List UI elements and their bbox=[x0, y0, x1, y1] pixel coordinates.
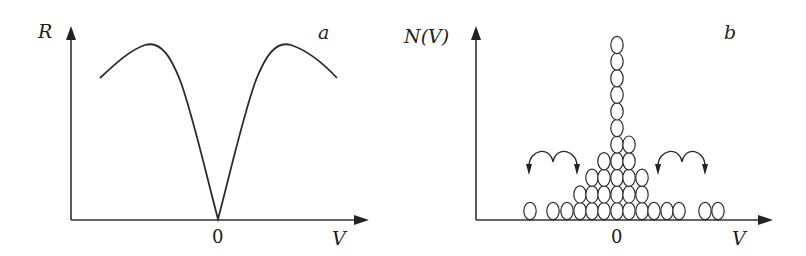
figure: R a 0 V N(V) b bbox=[0, 0, 806, 256]
particle bbox=[574, 186, 586, 203]
particle bbox=[586, 186, 598, 203]
particle bbox=[623, 153, 635, 170]
x-axis-arrow-icon bbox=[354, 215, 369, 225]
particle bbox=[611, 103, 623, 120]
particle bbox=[611, 153, 623, 170]
particle bbox=[611, 86, 623, 103]
particle bbox=[598, 153, 610, 170]
particle bbox=[611, 202, 623, 219]
panel-label-b: b bbox=[724, 21, 736, 43]
particle bbox=[712, 202, 724, 219]
particle bbox=[611, 136, 623, 153]
particle bbox=[598, 202, 610, 219]
particle bbox=[648, 202, 660, 219]
x-axis-arrow-icon bbox=[758, 215, 773, 225]
particle bbox=[598, 169, 610, 186]
particle bbox=[611, 70, 623, 87]
particle bbox=[636, 202, 648, 219]
origin-tick-a: 0 bbox=[212, 226, 223, 247]
particle bbox=[524, 202, 536, 219]
origin-tick-b: 0 bbox=[611, 226, 622, 247]
particle bbox=[661, 202, 673, 219]
particle bbox=[636, 169, 648, 186]
x-axis-label-b: V bbox=[732, 227, 748, 249]
y-axis-label-b: N(V) bbox=[403, 25, 449, 47]
panel-b: N(V) b 0 V bbox=[403, 21, 773, 249]
particle bbox=[673, 202, 685, 219]
double-arc-arrow-icon bbox=[526, 151, 580, 175]
particle bbox=[586, 169, 598, 186]
particle bbox=[623, 186, 635, 203]
particle bbox=[636, 186, 648, 203]
particle bbox=[561, 202, 573, 219]
particle bbox=[574, 202, 586, 219]
particle bbox=[586, 202, 598, 219]
y-axis-arrow-icon bbox=[66, 26, 76, 40]
particle bbox=[699, 202, 711, 219]
x-axis-label-a: V bbox=[332, 227, 348, 249]
y-axis-label-a: R bbox=[37, 20, 52, 42]
y-axis-arrow-icon bbox=[471, 26, 481, 40]
particle bbox=[623, 136, 635, 153]
double-arc-arrow-icon bbox=[655, 151, 708, 175]
panel-label-a: a bbox=[318, 21, 329, 43]
particle bbox=[611, 119, 623, 136]
particle bbox=[611, 53, 623, 70]
particle bbox=[547, 202, 559, 219]
particle bbox=[611, 36, 623, 53]
particle bbox=[611, 186, 623, 203]
particle bbox=[598, 186, 610, 203]
particle bbox=[623, 169, 635, 186]
particle-histogram bbox=[524, 36, 724, 219]
panel-a: R a 0 V bbox=[37, 20, 369, 249]
resistance-curve bbox=[100, 44, 337, 219]
particle bbox=[611, 169, 623, 186]
particle bbox=[623, 202, 635, 219]
